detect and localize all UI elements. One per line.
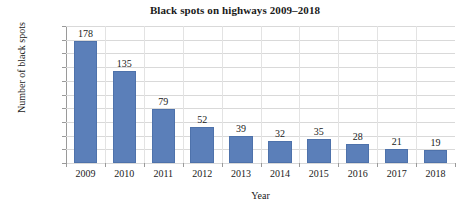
bar-value-label: 39 <box>222 123 261 134</box>
bar <box>307 139 330 163</box>
bar-value-label: 35 <box>299 126 338 137</box>
bar-chart: Black spots on highways 2009–2018 Number… <box>0 0 470 211</box>
bar-value-label: 52 <box>183 114 222 125</box>
bar-value-label: 79 <box>144 96 183 107</box>
bar-value-label: 32 <box>261 128 300 139</box>
x-tick-mark <box>455 163 456 167</box>
x-tick-label: 2017 <box>377 168 416 179</box>
x-tick-label: 2015 <box>299 168 338 179</box>
bar <box>152 109 175 163</box>
x-tick-mark <box>416 163 417 167</box>
vertical-gridline <box>183 26 184 163</box>
x-tick-label: 2018 <box>416 168 455 179</box>
bar <box>113 71 136 163</box>
bar <box>424 150 447 163</box>
vertical-gridline <box>338 26 339 163</box>
bar-value-label: 28 <box>338 131 377 142</box>
bar-value-label: 178 <box>66 28 105 39</box>
x-tick-mark <box>183 163 184 167</box>
x-tick-label: 2014 <box>261 168 300 179</box>
bar <box>346 144 369 163</box>
vertical-gridline <box>144 26 145 163</box>
bar <box>190 127 213 163</box>
x-tick-mark <box>66 163 67 167</box>
bar-value-label: 21 <box>377 136 416 147</box>
x-axis-title: Year <box>66 190 455 201</box>
x-tick-label: 2012 <box>183 168 222 179</box>
x-tick-mark <box>338 163 339 167</box>
bar <box>268 141 291 163</box>
x-tick-mark <box>222 163 223 167</box>
bar-value-label: 19 <box>416 137 455 148</box>
bar <box>229 136 252 163</box>
chart-title: Black spots on highways 2009–2018 <box>0 4 470 17</box>
x-tick-mark <box>377 163 378 167</box>
vertical-gridline <box>299 26 300 163</box>
bar <box>74 41 97 163</box>
vertical-gridline <box>105 26 106 163</box>
x-tick-mark <box>299 163 300 167</box>
x-tick-label: 2010 <box>105 168 144 179</box>
y-axis-title: Number of black spots <box>16 3 27 133</box>
vertical-gridline <box>222 26 223 163</box>
x-tick-label: 2011 <box>144 168 183 179</box>
x-tick-mark <box>105 163 106 167</box>
x-tick-label: 2013 <box>222 168 261 179</box>
x-tick-mark <box>261 163 262 167</box>
vertical-gridline <box>261 26 262 163</box>
x-tick-label: 2016 <box>338 168 377 179</box>
bar <box>385 149 408 163</box>
bar-value-label: 135 <box>105 58 144 69</box>
x-tick-mark <box>144 163 145 167</box>
x-tick-label: 2009 <box>66 168 105 179</box>
